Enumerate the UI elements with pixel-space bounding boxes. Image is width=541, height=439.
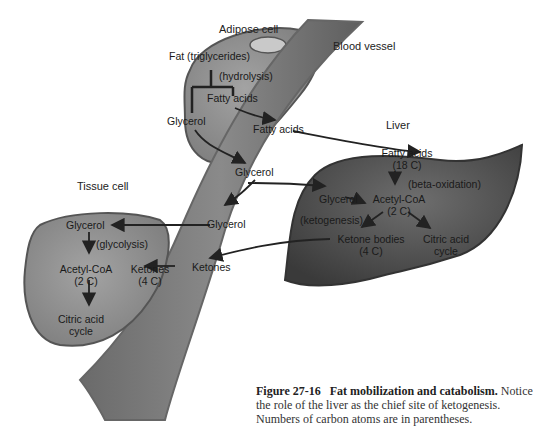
liver-citric-acid-label: Citric acid [423, 233, 469, 245]
tissue-cell-title: Tissue cell [77, 180, 129, 192]
liver-title: Liver [386, 119, 410, 131]
liver-fatty-acids-carbons: (18 C) [392, 159, 421, 171]
adipose-glycerol-label: Glycerol [167, 115, 206, 127]
vessel-fatty-acids-label: Fatty acids [253, 123, 304, 135]
tissue-glycerol-label: Glycerol [66, 219, 105, 231]
tissue-cycle-label: cycle [69, 325, 93, 337]
tissue-ketones-carbons: (4 C) [138, 275, 161, 287]
adipose-cell-title: Adipose cell [219, 23, 278, 35]
tissue-citric-acid-label: Citric acid [58, 313, 104, 325]
tissue-ketones-label: Ketones [131, 263, 170, 275]
ketone-bodies-label: Ketone bodies [337, 233, 404, 245]
liver-cycle-label: cycle [434, 245, 458, 257]
hydrolysis-label: (hydrolysis) [219, 70, 273, 82]
figure-caption: Figure 27-16 Fat mobilization and catabo… [256, 384, 541, 426]
tissue-acetyl-coa-carbons: (2 C) [74, 275, 97, 287]
vessel-glycerol-label-2: Glycerol [207, 218, 246, 230]
beta-oxidation-label: (beta-oxidation) [408, 178, 481, 190]
glycolysis-label: (glycolysis) [96, 238, 148, 250]
tissue-acetyl-coa-label: Acetyl-CoA [60, 263, 113, 275]
fat-triglycerides-label: Fat (triglycerides) [169, 50, 250, 62]
adipose-fatty-acids-label: Fatty acids [207, 92, 258, 104]
vessel-glycerol-label-1: Glycerol [235, 166, 274, 178]
blood-vessel-title: Blood vessel [333, 40, 395, 52]
liver-glycerol-label: Glycerol [319, 193, 358, 205]
ketone-bodies-carbons: (4 C) [359, 245, 382, 257]
vessel-ketones-label: Ketones [192, 261, 231, 273]
figure-label: Figure 27-16 [256, 384, 321, 398]
figure-title: Fat mobilization and catabolism. [330, 384, 498, 398]
liver-fatty-acids-label: Fatty acids [382, 147, 433, 159]
liver-acetyl-coa-carbons: (2 C) [387, 205, 410, 217]
ketogenesis-label: (ketogenesis) [300, 214, 363, 226]
liver-acetyl-coa-label: Acetyl-CoA [373, 193, 426, 205]
